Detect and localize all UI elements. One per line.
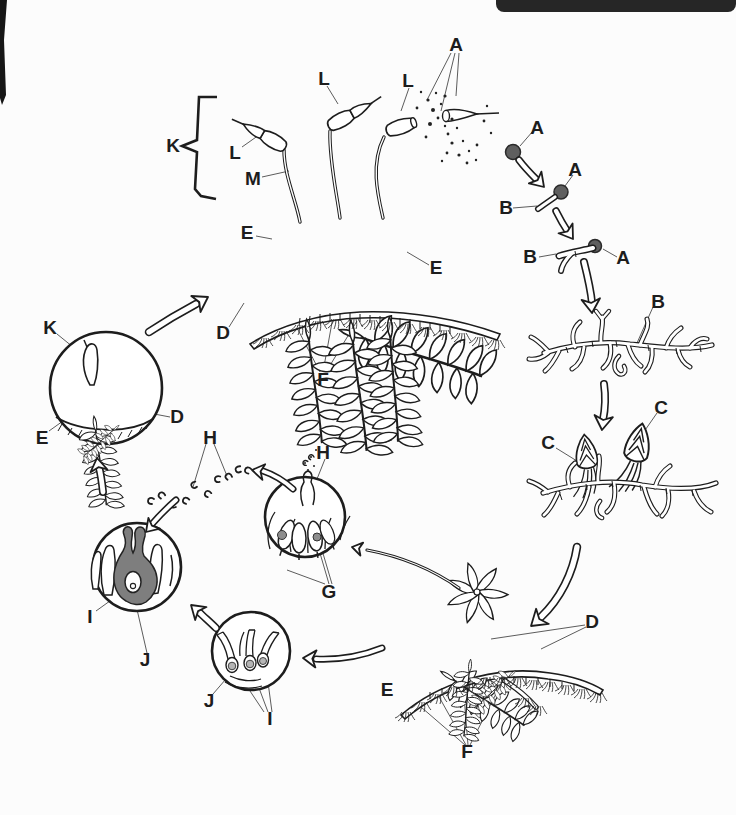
sperm-cells xyxy=(148,465,251,508)
label-leafy-shoot-left: E xyxy=(241,223,254,242)
label-gametophyte-shoots: D xyxy=(585,612,599,631)
label-gametophyte-rhizoids: F xyxy=(461,742,473,761)
label-sperm-swarm: H xyxy=(203,428,217,447)
label-spores-released: A xyxy=(449,35,463,54)
label-rhizoids-main: F xyxy=(317,370,329,389)
label-circle-shoot-d: D xyxy=(170,407,184,426)
label-fertilization-i: I xyxy=(87,607,92,626)
egg xyxy=(260,658,267,665)
label-germ1-a: A xyxy=(568,160,582,179)
label-germ2-b: B xyxy=(523,247,537,266)
label-young-sporophyte: K xyxy=(43,318,57,337)
gametophyte-plant xyxy=(401,563,603,747)
capsule-open xyxy=(384,115,418,138)
label-bud-left: C xyxy=(541,433,555,452)
label-eggs-i: I xyxy=(267,709,272,728)
label-young-shoot: D xyxy=(216,323,230,342)
label-gametophyte-leafy: E xyxy=(381,680,394,699)
label-capsule-middle: L xyxy=(318,69,330,88)
label-leafy-shoot-right: E xyxy=(430,258,443,277)
scan-artifact xyxy=(0,0,7,105)
label-sperm-released: H xyxy=(316,443,330,462)
splash-cup xyxy=(448,563,508,622)
label-germ2-a: A xyxy=(616,248,630,267)
redaction-bar xyxy=(496,0,736,12)
label-seta: M xyxy=(245,169,261,188)
label-fertilization-j: J xyxy=(140,650,151,669)
label-capsule-left: L xyxy=(229,143,241,162)
label-antheridia: G xyxy=(322,582,337,601)
adult-sporophyte-plant xyxy=(229,92,503,465)
label-bud-right: C xyxy=(654,398,668,417)
fertilization-circle xyxy=(91,523,181,611)
label-protonema: B xyxy=(651,292,665,311)
egg xyxy=(228,662,236,670)
label-germ1-b: B xyxy=(499,198,513,217)
protonema-filaments xyxy=(505,197,716,707)
label-spore: A xyxy=(530,118,544,137)
egg xyxy=(246,660,254,668)
label-sporophyte-bracket: K xyxy=(166,136,180,155)
label-capsule-right: L xyxy=(402,71,414,90)
sporophyte-bracket-brace xyxy=(182,97,217,199)
label-circle-shoot-e: E xyxy=(36,428,49,447)
label-archegonia-j: J xyxy=(204,691,215,710)
zygote xyxy=(125,572,141,593)
archegonia-circle xyxy=(212,612,290,690)
